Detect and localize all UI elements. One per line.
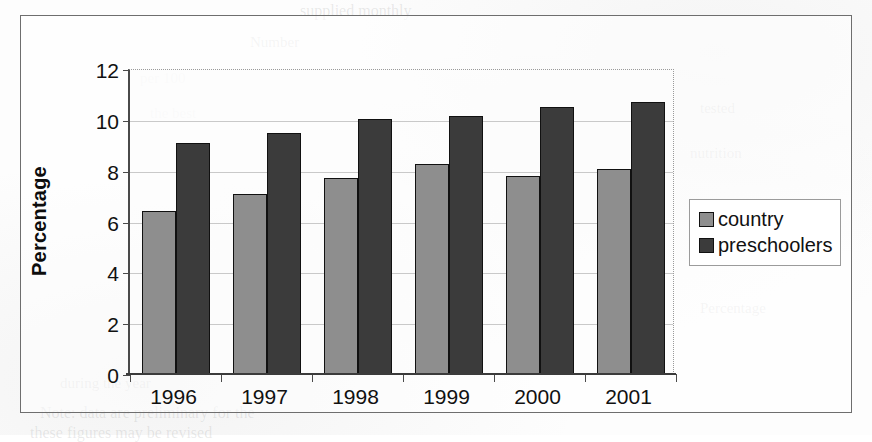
x-axis-tick	[221, 374, 222, 382]
y-axis-label: 10	[96, 110, 119, 131]
x-axis-tick	[130, 374, 131, 382]
bar-preschoolers-1998[interactable]	[358, 119, 392, 374]
x-axis-tick	[585, 374, 586, 382]
x-axis-tick	[676, 374, 677, 382]
bar-preschoolers-2001[interactable]	[631, 102, 665, 374]
x-axis-tick	[312, 374, 313, 382]
x-axis-label-2001: 2001	[605, 385, 652, 409]
y-axis-tick	[123, 273, 130, 274]
gridline	[130, 223, 673, 224]
bar-preschoolers-1996[interactable]	[176, 143, 210, 374]
y-axis-tick	[123, 121, 130, 122]
x-axis-tick	[403, 374, 404, 382]
chart-frame: Percentage 024681012 country preschooler…	[20, 15, 852, 413]
bar-preschoolers-1999[interactable]	[449, 116, 483, 374]
chart-legend: country preschoolers	[689, 199, 841, 266]
bar-country-1998[interactable]	[324, 178, 358, 374]
legend-label-preschoolers: preschoolers	[718, 235, 833, 255]
x-axis-label-1999: 1999	[423, 385, 470, 409]
x-axis-label-1996: 1996	[150, 385, 197, 409]
bar-preschoolers-1997[interactable]	[267, 133, 301, 374]
x-axis-label-1997: 1997	[241, 385, 288, 409]
y-axis-tick	[123, 375, 130, 376]
gridline	[130, 324, 673, 325]
gridline	[130, 172, 673, 173]
bar-country-2000[interactable]	[506, 176, 540, 374]
legend-item-preschoolers[interactable]: preschoolers	[699, 232, 832, 258]
bar-country-2001[interactable]	[597, 169, 631, 374]
gridline	[130, 121, 673, 122]
page-bleed-line: these figures may be revised	[30, 424, 212, 442]
y-axis-label: 4	[107, 263, 119, 284]
x-axis-label-1998: 1998	[332, 385, 379, 409]
plot-area: 024681012	[128, 69, 674, 374]
bar-country-1996[interactable]	[142, 211, 176, 374]
bar-preschoolers-2000[interactable]	[540, 107, 574, 374]
y-axis-label: 2	[107, 314, 119, 335]
x-axis-label-2000: 2000	[514, 385, 561, 409]
y-axis-label: 12	[96, 60, 119, 81]
y-axis-label: 6	[107, 212, 119, 233]
bar-country-1997[interactable]	[233, 194, 267, 374]
legend-item-country[interactable]: country	[699, 206, 832, 232]
gridline	[130, 273, 673, 274]
y-axis-label: 8	[107, 161, 119, 182]
x-axis-tick	[494, 374, 495, 382]
y-axis-label: 0	[107, 365, 119, 386]
y-axis-tick	[123, 223, 130, 224]
legend-label-country: country	[718, 209, 784, 229]
y-axis-title: Percentage	[28, 166, 51, 276]
y-axis-tick	[123, 172, 130, 173]
legend-swatch-preschoolers-icon	[699, 238, 714, 253]
x-axis-line	[126, 373, 676, 375]
y-axis-tick	[123, 70, 130, 71]
bar-country-1999[interactable]	[415, 164, 449, 374]
legend-swatch-country-icon	[699, 212, 714, 227]
y-axis-tick	[123, 324, 130, 325]
